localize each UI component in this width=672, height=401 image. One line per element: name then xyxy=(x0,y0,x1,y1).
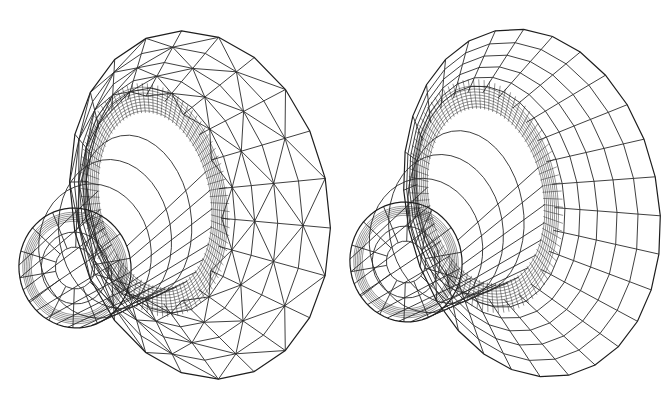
mesh-diagonal xyxy=(70,139,79,182)
mesh-spoke xyxy=(531,284,618,347)
mesh-diagonal xyxy=(241,111,243,151)
mesh-diagonal xyxy=(236,351,285,354)
mesh-diagonal xyxy=(232,151,241,187)
dense-ring-spoke xyxy=(192,274,205,299)
mesh-diagonal xyxy=(255,221,274,261)
mesh-diagonal xyxy=(244,111,285,138)
mesh-diagonal xyxy=(204,297,209,322)
dense-ring-spoke xyxy=(484,80,485,109)
mesh-diagonal xyxy=(79,92,90,139)
mesh-diagonal xyxy=(172,343,192,354)
dense-ring-spoke xyxy=(186,280,197,307)
triangular-mesh-figure xyxy=(0,0,336,401)
dense-ring-spoke xyxy=(473,79,476,109)
quad-mesh-figure xyxy=(336,0,672,401)
mesh-diagonal xyxy=(232,250,241,285)
mesh-spoke xyxy=(547,139,645,161)
mesh-diagonal xyxy=(146,38,173,47)
dense-ring-band xyxy=(96,108,214,292)
tube-dense-band xyxy=(354,206,458,317)
mesh-diagonal xyxy=(243,306,285,321)
mesh-diagonal xyxy=(209,285,241,297)
mesh-diagonal xyxy=(241,285,243,321)
mesh-diagonal xyxy=(156,313,171,321)
mesh-spoke xyxy=(211,131,309,160)
dense-ring-spoke xyxy=(479,79,481,109)
mesh-diagonal xyxy=(285,90,286,139)
mesh-ring xyxy=(74,47,303,360)
tube-opening-outline xyxy=(19,208,131,328)
mesh-ring xyxy=(414,77,580,318)
mesh-diagonal xyxy=(274,138,285,183)
mesh-diagonal xyxy=(274,183,303,225)
mesh-spoke xyxy=(513,52,580,108)
mesh-diagonal xyxy=(204,321,243,322)
mesh-diagonal xyxy=(236,72,285,90)
mesh-spoke xyxy=(182,301,254,372)
dense-ring-spoke xyxy=(444,90,455,117)
mesh-spoke xyxy=(483,29,524,92)
mesh-spoke xyxy=(222,218,331,228)
mesh-spoke xyxy=(183,58,254,115)
mesh-diagonal xyxy=(274,226,304,262)
mesh-diagonal xyxy=(255,183,274,221)
mesh-spoke xyxy=(549,251,651,290)
mesh-diagonal xyxy=(172,93,184,114)
mesh-diagonal xyxy=(95,72,114,110)
mesh-diagonal xyxy=(232,187,255,221)
mesh-spoke xyxy=(526,75,605,122)
mesh-diagonal xyxy=(210,129,242,151)
mesh-spoke xyxy=(542,270,638,322)
mesh-diagonal xyxy=(137,320,157,321)
dense-ring-spoke xyxy=(491,283,493,313)
tube-dense-band xyxy=(356,208,457,316)
tube-cap-spoke xyxy=(21,251,56,262)
mesh-spoke xyxy=(552,177,655,185)
mesh-diagonal xyxy=(137,68,157,76)
tube-cap-ring xyxy=(56,247,95,288)
dense-ring-spoke xyxy=(161,287,163,317)
mesh-ring xyxy=(86,88,235,313)
dense-ring-spoke xyxy=(524,270,537,295)
mesh-spoke xyxy=(554,230,659,254)
mesh-diagonal xyxy=(218,354,236,379)
mesh-diagonal xyxy=(90,72,114,92)
mesh-diagonal xyxy=(303,178,325,225)
mesh-diagonal xyxy=(303,226,325,276)
mesh-diagonal xyxy=(192,322,204,342)
mesh-diagonal xyxy=(285,306,286,351)
mesh-diagonal xyxy=(274,262,285,306)
mesh-spoke xyxy=(538,105,628,141)
dense-ring-spoke xyxy=(543,205,563,208)
mesh-spoke xyxy=(555,208,661,216)
mesh-diagonal xyxy=(146,353,172,355)
mesh-diagonal xyxy=(241,262,274,286)
triangular-mesh-panel xyxy=(0,0,336,401)
dense-ring-spoke xyxy=(142,83,145,113)
dense-ring-spoke xyxy=(530,262,545,285)
mesh-diagonal xyxy=(232,221,255,250)
quad-mesh-panel xyxy=(336,0,672,401)
mesh-diagonal xyxy=(236,321,243,354)
mesh-diagonal xyxy=(193,68,237,71)
